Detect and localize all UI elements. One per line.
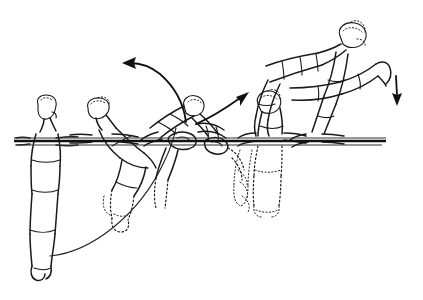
gymnastics-sequence-figure: Horizontal bar skill sequence horizontal…	[0, 0, 423, 300]
figure-background	[0, 0, 423, 300]
figure-canvas	[0, 0, 423, 300]
